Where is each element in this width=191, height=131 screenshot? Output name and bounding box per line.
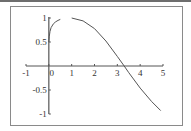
axes: [26, 17, 163, 114]
x-tick-label: 5: [161, 68, 166, 78]
line-chart: -101234510.5-0.5-1: [0, 0, 191, 131]
x-tick-label: -1: [22, 68, 30, 78]
series-lines: [49, 18, 161, 111]
curve-2-line: [72, 18, 161, 111]
y-tick-label: 0.5: [36, 37, 48, 47]
curve-1-line: [49, 19, 61, 42]
y-tick-label: -1: [39, 109, 47, 119]
x-tick-label: 0: [50, 68, 55, 78]
y-tick-label: -0.5: [33, 85, 48, 95]
x-tick-label: 4: [138, 68, 143, 78]
x-tick-label: 1: [69, 68, 74, 78]
x-tick-label: 3: [115, 68, 120, 78]
y-tick-label: 1: [42, 13, 47, 23]
x-tick-label: 2: [92, 68, 97, 78]
